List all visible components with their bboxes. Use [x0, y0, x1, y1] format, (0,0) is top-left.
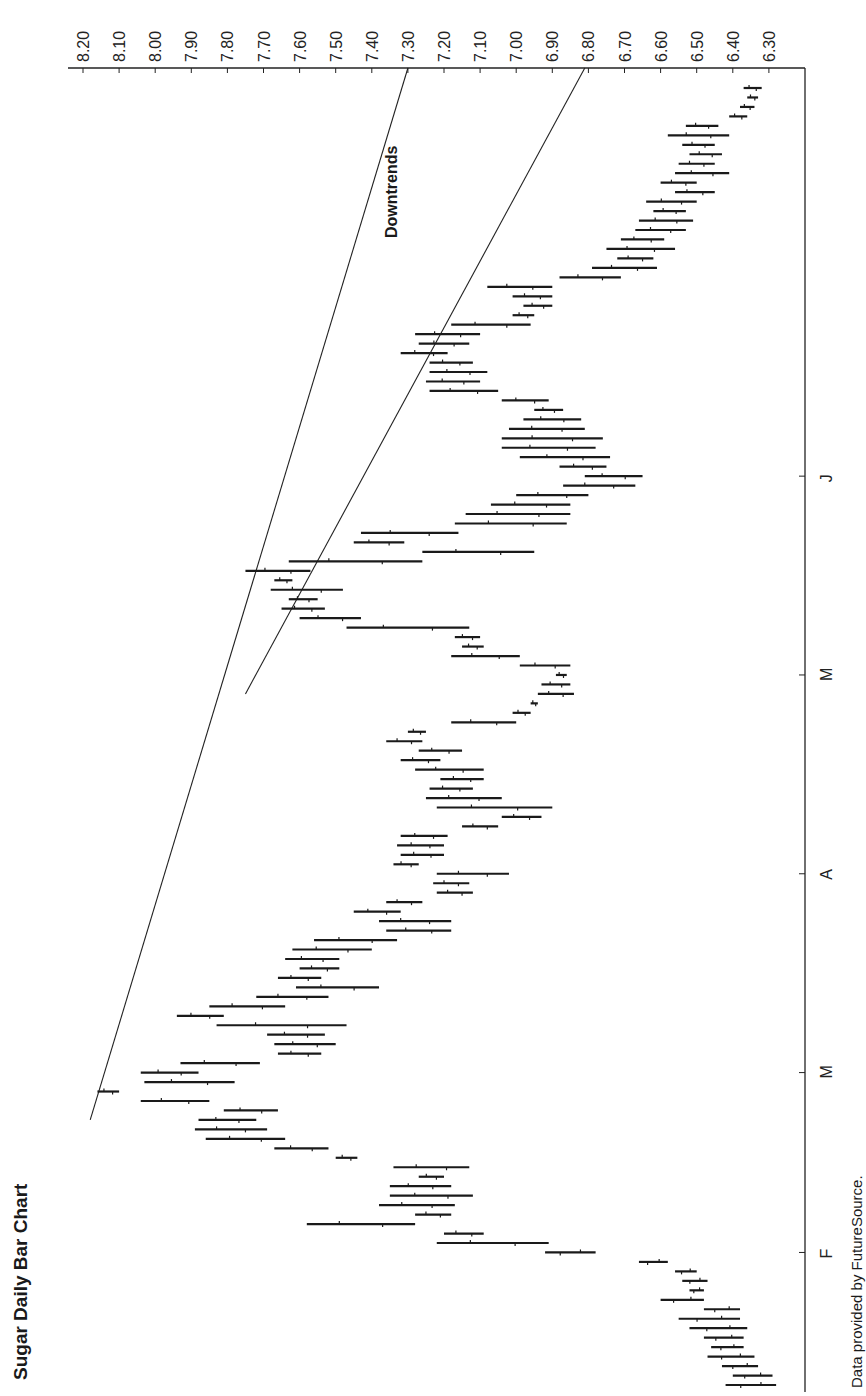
axes: 8.208.108.007.907.807.707.607.507.407.30…: [68, 31, 835, 1392]
price-tick-label: 7.20: [436, 31, 453, 62]
month-tick-label: F: [818, 1248, 835, 1258]
price-tick-label: 6.70: [617, 31, 634, 62]
price-tick-label: 8.10: [111, 31, 128, 62]
price-tick-label: 7.60: [292, 31, 309, 62]
price-tick-label: 6.30: [761, 31, 778, 62]
price-tick-label: 7.40: [364, 31, 381, 62]
price-tick-label: 7.30: [400, 31, 417, 62]
trendlines: [90, 68, 585, 1120]
price-tick-label: 8.20: [75, 31, 92, 62]
price-tick-label: 7.50: [328, 31, 345, 62]
price-tick-label: 7.80: [219, 31, 236, 62]
month-tick-label: M: [818, 1065, 835, 1078]
price-tick-label: 8.00: [147, 31, 164, 62]
price-tick-label: 6.80: [580, 31, 597, 62]
month-tick-label: M: [818, 668, 835, 681]
chart-title: Sugar Daily Bar Chart: [10, 1184, 32, 1380]
price-tick-label: 7.70: [256, 31, 273, 62]
bar-chart: 8.208.108.007.907.807.707.607.507.407.30…: [0, 0, 866, 1396]
month-tick-label: J: [818, 474, 835, 482]
month-tick-label: A: [818, 869, 835, 880]
price-tick-label: 7.00: [508, 31, 525, 62]
price-bars: [97, 85, 776, 1388]
price-tick-label: 7.90: [183, 31, 200, 62]
downtrends-label: Downtrends: [383, 146, 401, 238]
price-tick-label: 6.60: [653, 31, 670, 62]
data-source-note: Data provided by FutureSource.: [848, 1175, 865, 1388]
price-tick-label: 6.50: [689, 31, 706, 62]
price-tick-label: 6.90: [544, 31, 561, 62]
price-tick-label: 6.40: [725, 31, 742, 62]
price-tick-label: 7.10: [472, 31, 489, 62]
downtrend-1-line: [90, 68, 408, 1120]
